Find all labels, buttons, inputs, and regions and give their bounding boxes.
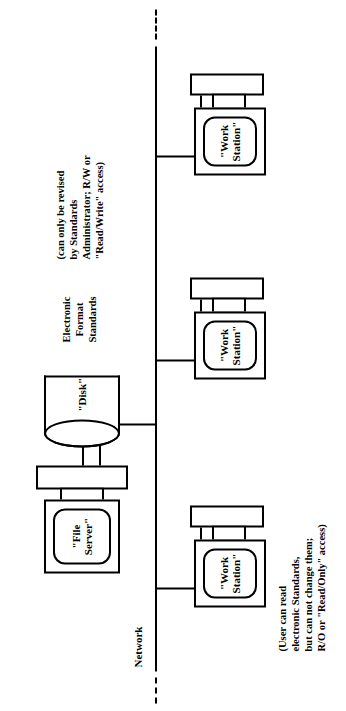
file-server-monitor: "File Server" — [44, 499, 120, 573]
workstation-2-monitor: "Work Station" — [194, 311, 266, 379]
workstation-2-tower — [190, 277, 264, 299]
workstation-3-label: "Work Station" — [218, 118, 242, 164]
network-bus-dash-right — [155, 9, 157, 39]
annotation-user-access: (User can read electronic Standards, but… — [276, 471, 328, 651]
diagram-canvas: Network "File Server" "Disk" Electronic … — [0, 0, 346, 711]
disk-connector-line — [82, 445, 84, 465]
file-server-label: "File Server" — [70, 510, 94, 562]
workstation-3-monitor: "Work Station" — [194, 107, 266, 175]
workstation-1-screen: "Work Station" — [203, 548, 257, 598]
file-server-screen: "File Server" — [53, 508, 111, 564]
workstation-2-screen: "Work Station" — [203, 320, 257, 370]
network-bus-solid — [155, 46, 157, 671]
annotation-electronic-format-standards: Electronic Format Standards — [60, 273, 99, 365]
workstation-3-tower — [190, 73, 264, 95]
disk-cap-outline — [44, 419, 120, 447]
workstation-3-screen: "Work Station" — [203, 116, 257, 166]
workstation-2-label: "Work Station" — [218, 322, 242, 368]
disk-label: "Disk" — [76, 377, 88, 411]
file-server-tower — [36, 465, 128, 489]
workstation-1-label: "Work Station" — [218, 550, 242, 596]
annotation-admin-access: (can only be revised by Standards Admini… — [54, 99, 106, 259]
workstation-1-tower — [190, 505, 264, 527]
network-bus-dash-left — [155, 677, 157, 703]
network-label: Network — [132, 626, 144, 667]
diagram-page: Network "File Server" "Disk" Electronic … — [0, 0, 346, 711]
disk: "Disk" — [44, 375, 120, 447]
workstation-1-monitor: "Work Station" — [194, 539, 266, 607]
